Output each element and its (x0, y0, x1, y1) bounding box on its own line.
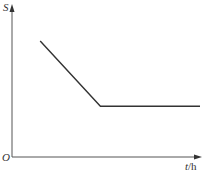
origin-label: O (2, 151, 10, 163)
x-axis-arrow-icon (194, 155, 202, 160)
y-axis-arrow-icon (10, 4, 15, 12)
series-line (40, 41, 200, 106)
x-axis-label-unit: /h (188, 160, 197, 172)
y-axis-label: S (3, 1, 9, 13)
chart-svg (0, 0, 205, 179)
line-chart: S O t/h (0, 0, 205, 179)
x-axis-label: t/h (185, 160, 197, 172)
